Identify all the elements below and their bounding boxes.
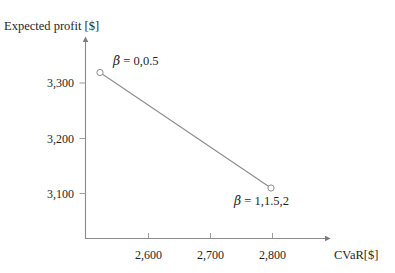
- y-axis-title: Expected profit [$]: [4, 20, 99, 33]
- y-tick-label-3300: 3,300: [24, 77, 74, 89]
- annotation-beta-upper: β = 0,0.5: [113, 55, 159, 68]
- annotation-beta-lower: β = 1,1.5,2: [234, 195, 289, 208]
- data-point-marker: [97, 69, 103, 75]
- x-tick-label-2700: 2,700: [181, 249, 241, 261]
- chart-figure: Expected profit [$] CVaR[$] 3,300 3,200 …: [0, 0, 395, 273]
- annotation-beta-lower-value: = 1,1.5,2: [241, 194, 289, 208]
- data-point-marker: [268, 185, 274, 191]
- y-tick-label-3100: 3,100: [24, 188, 74, 200]
- annotation-beta-upper-value: = 0,0.5: [120, 54, 158, 68]
- series-line-efficient-frontier: [100, 73, 271, 189]
- x-axis-title: CVaR[$]: [334, 249, 378, 262]
- x-tick-label-2800: 2,800: [243, 249, 303, 261]
- x-tick-label-2600: 2,600: [119, 249, 179, 261]
- y-tick-label-3200: 3,200: [24, 133, 74, 145]
